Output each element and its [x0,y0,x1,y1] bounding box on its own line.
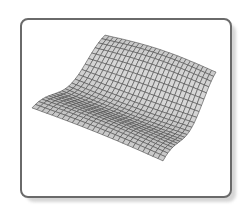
surface-mesh-icon [0,0,248,216]
